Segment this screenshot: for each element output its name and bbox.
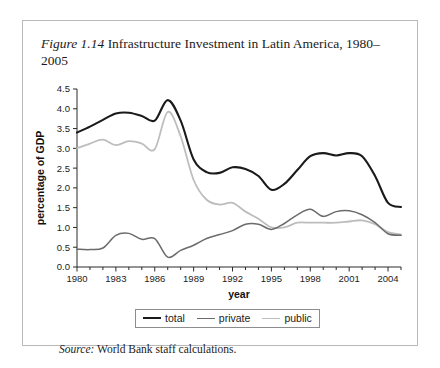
legend-swatch-private (197, 318, 215, 319)
legend-label-private: private (219, 312, 251, 324)
x-tick-label: 1986 (144, 273, 165, 284)
x-tick-label: 1980 (66, 273, 87, 284)
x-axis-title: year (228, 288, 250, 300)
legend-item-private: private (197, 312, 251, 324)
y-tick-label: 3.0 (57, 143, 70, 154)
source-label: Source: (59, 343, 94, 355)
y-tick-label: 3.5 (57, 123, 70, 134)
legend-item-total: total (143, 312, 185, 324)
y-tick-label: 0.5 (57, 242, 70, 253)
chart-legend: totalprivatepublic (135, 309, 320, 328)
legend-swatch-public (262, 318, 280, 319)
x-tick-label: 1983 (105, 273, 126, 284)
line-chart: 0.00.51.01.52.02.53.03.54.04.51980198319… (33, 83, 409, 301)
y-tick-label: 1.0 (57, 222, 70, 233)
y-tick-label: 1.5 (57, 202, 70, 213)
x-tick-label: 2001 (339, 273, 360, 284)
x-tick-label: 1995 (261, 273, 282, 284)
chart-plot-area: 0.00.51.01.52.02.53.03.54.04.51980198319… (33, 83, 409, 301)
y-tick-label: 2.0 (57, 182, 70, 193)
figure-title: Figure 1.14 Infrastructure Investment in… (41, 35, 389, 69)
figure-frame: Figure 1.14 Infrastructure Investment in… (22, 20, 418, 346)
series-line-private (77, 209, 401, 257)
legend-label-public: public (284, 312, 311, 324)
y-tick-label: 4.5 (57, 83, 70, 94)
x-tick-label: 2004 (377, 273, 398, 284)
figure-label: Figure 1.14 (41, 36, 104, 51)
x-tick-label: 1989 (183, 273, 204, 284)
y-tick-label: 2.5 (57, 163, 70, 174)
series-line-total (77, 100, 401, 207)
series-line-public (77, 112, 401, 235)
legend-swatch-total (143, 317, 161, 319)
y-tick-label: 4.0 (57, 103, 70, 114)
y-axis-title: percentage of GDP (34, 131, 46, 226)
y-tick-label: 0.0 (57, 261, 70, 272)
x-tick-label: 1998 (300, 273, 321, 284)
x-tick-label: 1992 (222, 273, 243, 284)
source-text: World Bank staff calculations. (97, 343, 236, 355)
legend-item-public: public (262, 312, 311, 324)
source-note: Source: World Bank staff calculations. (59, 343, 236, 355)
legend-label-total: total (165, 312, 185, 324)
